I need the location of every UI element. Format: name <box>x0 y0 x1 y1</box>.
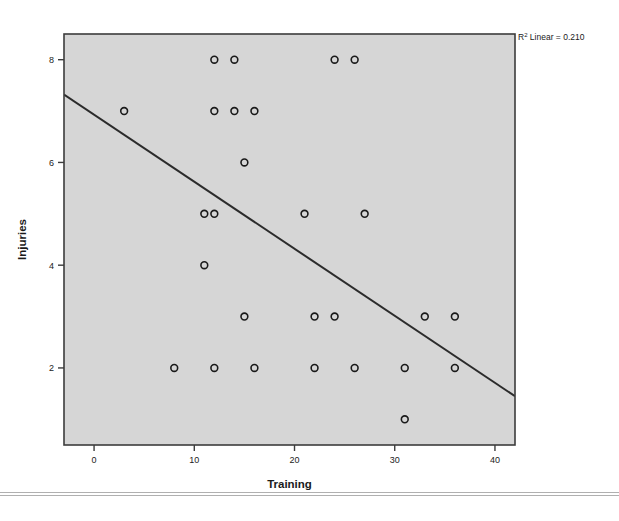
r-squared-annotation: R2 Linear = 0.210 <box>518 32 585 43</box>
x-axis-title: Training <box>267 478 312 490</box>
y-axis-tick-label: 4 <box>49 261 54 271</box>
page-divider-top <box>0 492 619 493</box>
y-axis-tick-label: 2 <box>49 363 54 373</box>
scatter-plot-figure: 0102030402468TrainingInjuriesR2 Linear =… <box>0 0 619 521</box>
scatter-chart: 0102030402468TrainingInjuriesR2 Linear =… <box>0 0 619 521</box>
y-axis-title: Injuries <box>16 219 28 260</box>
x-axis-tick-label: 40 <box>490 455 500 465</box>
x-axis-tick-label: 0 <box>92 455 97 465</box>
plot-area-background <box>64 34 515 445</box>
page-divider-bottom <box>0 495 619 496</box>
x-axis-tick-label: 20 <box>290 455 300 465</box>
y-axis-tick-label: 8 <box>49 55 54 65</box>
x-axis-tick-label: 10 <box>189 455 199 465</box>
y-axis-tick-label: 6 <box>49 158 54 168</box>
x-axis-tick-label: 30 <box>390 455 400 465</box>
